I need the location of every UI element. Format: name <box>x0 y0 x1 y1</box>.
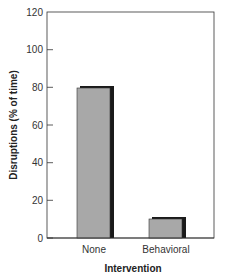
y-tick-label: 40 <box>32 157 44 168</box>
x-category-label: None <box>82 244 106 255</box>
y-axis: 0 20 40 60 80 100 120 <box>26 7 53 244</box>
y-tick-label: 60 <box>32 120 44 131</box>
y-tick-label: 100 <box>26 44 43 55</box>
x-axis-title: Intervention <box>104 263 161 274</box>
y-axis-title: Disruptions (% of time) <box>8 70 19 179</box>
y-tick-label: 0 <box>37 233 43 244</box>
x-category-label: Behavioral <box>142 244 189 255</box>
bar-chart: 0 20 40 60 80 100 120 Disruptions (% of … <box>0 0 228 280</box>
y-tick-label: 120 <box>26 7 43 18</box>
bar-none <box>77 86 114 238</box>
bar-behavioral <box>149 217 186 238</box>
plot-frame <box>47 12 214 238</box>
y-tick-label: 20 <box>32 195 44 206</box>
y-tick-label: 80 <box>32 82 44 93</box>
